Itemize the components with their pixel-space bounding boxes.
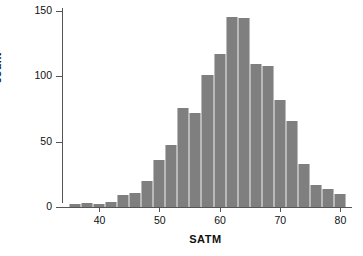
x-tick-label: 40	[94, 214, 106, 226]
x-tick: 50	[159, 207, 160, 212]
histogram-bar	[117, 195, 129, 207]
histogram-bar	[141, 181, 153, 207]
histogram-bar	[69, 204, 81, 207]
histogram-bar	[262, 66, 274, 207]
plot-area: 050100150 4050607080	[60, 8, 352, 207]
histogram-bar	[201, 75, 213, 207]
histogram-bar	[310, 185, 322, 207]
histogram-bar	[189, 113, 201, 207]
histogram-bar	[298, 164, 310, 207]
histogram-bar	[334, 194, 346, 207]
histogram-bar	[177, 108, 189, 208]
histogram-bar	[129, 193, 141, 207]
histogram-bar	[105, 202, 117, 207]
y-tick-label: 150	[34, 4, 52, 16]
histogram-bar	[250, 64, 262, 207]
histogram-bar	[165, 145, 177, 207]
x-tick: 70	[280, 207, 281, 212]
histogram-figure: count SATM 050100150 4050607080	[0, 0, 363, 256]
x-axis-line	[60, 207, 352, 208]
histogram-bar	[238, 18, 250, 207]
y-tick: 0	[56, 207, 62, 208]
histogram-bar	[93, 204, 105, 207]
y-axis-label: count	[0, 38, 4, 98]
x-tick: 60	[220, 207, 221, 212]
y-tick-label: 100	[34, 69, 52, 81]
x-tick-label: 50	[154, 214, 166, 226]
y-tick-label: 50	[40, 135, 52, 147]
histogram-bar	[226, 17, 238, 207]
histogram-bar	[153, 160, 165, 207]
histogram-bar	[81, 203, 93, 207]
x-axis-label: SATM	[0, 233, 363, 245]
histogram-bar	[214, 54, 226, 207]
x-tick-label: 70	[274, 214, 286, 226]
y-tick-label: 0	[46, 200, 52, 212]
x-tick: 40	[99, 207, 100, 212]
histogram-bar	[286, 121, 298, 207]
histogram-bar	[274, 100, 286, 207]
x-tick: 80	[340, 207, 341, 212]
x-tick-label: 60	[214, 214, 226, 226]
histogram-bar	[322, 189, 334, 207]
x-tick-label: 80	[335, 214, 347, 226]
histogram-bars	[60, 8, 352, 207]
